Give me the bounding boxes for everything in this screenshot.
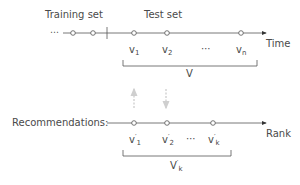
label-ellipsis-prime: ⋯	[186, 134, 196, 144]
label-vn: vn	[236, 45, 246, 57]
recommendations-label: Recommendations:	[12, 118, 108, 128]
leading-ellipsis: ⋯	[50, 28, 59, 37]
rank-axis-label: Rank	[266, 129, 291, 139]
test-set-label: Test set	[144, 10, 182, 20]
test-point-v1	[132, 31, 137, 36]
rec-point-v1	[132, 121, 137, 126]
recommendation-Vk-label: V′k	[170, 160, 183, 173]
training-point	[91, 31, 96, 36]
training-set-label: Training set	[45, 10, 103, 20]
test-point-v2	[165, 31, 170, 36]
time-axis-label: Time	[266, 39, 290, 49]
label-v1: v1	[129, 45, 139, 57]
rec-point-vk	[211, 121, 216, 126]
label-v1-prime: v′1	[129, 134, 141, 147]
time-axis	[63, 27, 266, 39]
label-vk-prime: v′k	[208, 134, 220, 147]
recommendation-bracket	[123, 150, 231, 156]
test-point-vn	[239, 31, 244, 36]
test-set-V-label: V	[186, 69, 193, 79]
label-ellipsis: ⋯	[201, 44, 211, 54]
diagram-canvas	[0, 0, 300, 185]
rec-point-v2	[165, 121, 170, 126]
test-set-bracket	[123, 60, 257, 66]
mapping-arrows	[134, 89, 166, 108]
rank-axis	[107, 121, 266, 126]
training-point	[71, 31, 76, 36]
label-v2-prime: v′2	[162, 134, 174, 147]
label-v2: v2	[162, 45, 172, 57]
